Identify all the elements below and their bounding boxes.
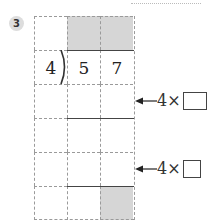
grid-cell[interactable] xyxy=(67,118,100,152)
grid-cell[interactable] xyxy=(34,16,67,50)
grid-cell[interactable] xyxy=(100,152,133,186)
subtraction-line xyxy=(67,186,134,187)
division-bar xyxy=(67,50,134,51)
subtraction-line xyxy=(67,118,134,119)
grid-cell[interactable] xyxy=(67,152,100,186)
multiplier-text: 4× xyxy=(157,159,181,178)
grid-cell[interactable] xyxy=(34,152,67,186)
division-bracket-icon xyxy=(59,50,69,84)
grid-cell[interactable] xyxy=(34,186,67,220)
dividend-digit-cell: 7 xyxy=(100,50,133,84)
grid-border xyxy=(134,16,135,220)
decorative-dotted-line xyxy=(131,3,201,4)
grid-cell[interactable] xyxy=(100,84,133,118)
grid-cell[interactable] xyxy=(67,84,100,118)
grid-cell[interactable] xyxy=(67,186,100,220)
left-arrow-icon xyxy=(135,164,157,174)
multiplication-hint: 4× xyxy=(135,159,201,178)
grid-cell[interactable] xyxy=(100,118,133,152)
multiplication-hint: 4× xyxy=(135,91,207,110)
quotient-cell-shaded xyxy=(100,16,133,50)
long-division-grid: 4 5 7 xyxy=(34,16,134,220)
dividend-digit-cell: 5 xyxy=(67,50,100,84)
left-arrow-icon xyxy=(135,96,157,106)
remainder-cell-shaded xyxy=(100,186,133,220)
answer-box[interactable] xyxy=(183,92,207,110)
problem-number-badge: 3 xyxy=(9,16,24,31)
grid-cell[interactable] xyxy=(34,118,67,152)
grid-border xyxy=(34,219,134,220)
grid-cell[interactable] xyxy=(34,84,67,118)
multiplier-text: 4× xyxy=(157,91,181,110)
answer-box[interactable] xyxy=(183,160,201,178)
quotient-cell-shaded xyxy=(67,16,100,50)
